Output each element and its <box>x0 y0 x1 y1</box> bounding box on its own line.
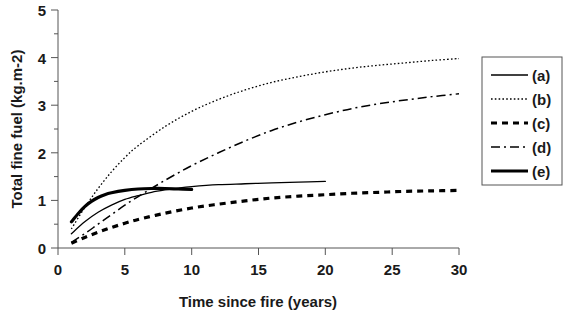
y-tick-label: 0 <box>38 240 46 257</box>
x-axis-title: Time since fire (years) <box>179 293 337 310</box>
legend-label-c: (c) <box>532 115 550 132</box>
legend: (a)(b)(c)(d)(e) <box>482 57 562 185</box>
x-tick-label: 0 <box>54 261 62 278</box>
legend-label-a: (a) <box>532 67 550 84</box>
x-tick-label: 20 <box>317 261 334 278</box>
legend-label-d: (d) <box>532 139 551 156</box>
y-tick-label: 5 <box>38 2 46 19</box>
fuel-accumulation-chart: 5 4 3 2 1 0 0 5 10 15 20 25 30 Time sinc… <box>0 0 565 316</box>
x-tick-label: 5 <box>121 261 129 278</box>
x-tick-label: 30 <box>451 261 468 278</box>
chart-canvas: 5 4 3 2 1 0 0 5 10 15 20 25 30 Time sinc… <box>0 0 565 316</box>
y-axis-title: Total fine fuel (kg.m-2) <box>8 50 25 209</box>
x-tick-label: 25 <box>384 261 401 278</box>
legend-label-b: (b) <box>532 91 551 108</box>
y-tick-label: 3 <box>38 97 46 114</box>
chart-background <box>0 0 565 316</box>
x-tick-label: 10 <box>183 261 200 278</box>
y-tick-label: 4 <box>38 50 47 67</box>
legend-label-e: (e) <box>532 163 550 180</box>
x-tick-label: 15 <box>250 261 267 278</box>
y-tick-label: 2 <box>38 145 46 162</box>
y-tick-label: 1 <box>38 192 46 209</box>
